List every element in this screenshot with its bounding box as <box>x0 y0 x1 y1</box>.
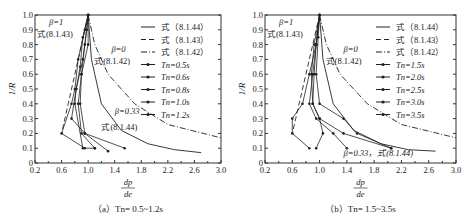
y-tick-label: 0.5 <box>252 84 263 94</box>
x-tick-label: 1.8 <box>369 165 380 175</box>
y-tick-label: 0.4 <box>252 99 263 109</box>
annotation-eq-8-1-44: 式(8.1.44) <box>101 122 137 132</box>
legend-item-7: Tn=3.0s <box>396 97 425 107</box>
annotation-beta-1: β=1 <box>278 17 293 27</box>
annotation-beta-0: β=0 <box>110 44 126 54</box>
y-tick-label: 0.8 <box>252 40 263 50</box>
panel-caption: （a）Tn= 0.5~1.2s <box>93 204 164 214</box>
chart-panel-a: 00.10.20.30.40.50.60.70.80.91.00.20.61.0… <box>7 10 226 214</box>
chart-figure: 00.10.20.30.40.50.60.70.80.91.00.20.61.0… <box>0 0 473 219</box>
y-tick-label: 0.6 <box>22 69 33 79</box>
annotation-eq-8-1-43: 式(8.1.43) <box>267 29 303 39</box>
legend-item-3: 式（8.1.42） <box>161 47 209 57</box>
x-tick-label: 1.4 <box>342 165 353 175</box>
y-tick-label: 0.9 <box>252 25 263 35</box>
x-tick-label: 1.0 <box>314 165 325 175</box>
series-line <box>320 15 456 138</box>
annotation-eq-8-1-43: 式(8.1.43) <box>37 29 73 39</box>
y-tick-label: 0.7 <box>22 54 33 64</box>
legend-item-5: Tn=0.6s <box>161 72 190 82</box>
legend-item-2: 式（8.1.43） <box>161 35 209 45</box>
y-tick-label: 0.3 <box>22 114 33 124</box>
y-tick-label: 0.1 <box>22 143 33 153</box>
legend-item-7: Tn=1.0s <box>161 97 190 107</box>
y-axis-label: 1/R <box>237 82 247 95</box>
x-tick-label: 0.2 <box>260 165 271 175</box>
x-axis-label-denominator: de <box>356 189 364 199</box>
series-line <box>88 15 221 138</box>
x-tick-label: 1.0 <box>83 165 94 175</box>
y-tick-label: 0.8 <box>22 40 33 50</box>
y-axis-label: 1/R <box>7 82 17 95</box>
x-tick-label: 1.4 <box>109 165 120 175</box>
annotation-eq-8-1-42: 式(8.1.42) <box>94 56 130 66</box>
x-tick-label: 2.6 <box>189 165 200 175</box>
panel-caption: （b）Tn= 1.5~3.5s <box>325 204 396 214</box>
legend-item-4: Tn=1.5s <box>396 60 425 70</box>
legend-item-4: Tn=0.5s <box>161 60 190 70</box>
x-tick-label: 2.6 <box>423 165 434 175</box>
y-tick-label: 1.0 <box>252 10 263 20</box>
x-tick-label: 2.2 <box>396 165 407 175</box>
x-axis-label-numerator: dp <box>124 177 133 187</box>
annotation-beta-1: β=1 <box>48 17 63 27</box>
legend-item-6: Tn=2.5s <box>396 85 425 95</box>
x-tick-label: 3.0 <box>216 165 227 175</box>
y-tick-label: 0.2 <box>22 128 33 138</box>
y-tick-label: 0.1 <box>252 143 263 153</box>
x-tick-label: 0.2 <box>30 165 41 175</box>
series-line <box>311 15 391 148</box>
x-tick-label: 3.0 <box>451 165 462 175</box>
legend-item-1: 式（8.1.44） <box>396 22 444 32</box>
legend-item-1: 式（8.1.44） <box>161 22 209 32</box>
y-tick-label: 0.7 <box>252 54 263 64</box>
annotation-beta-0: β=0 <box>342 44 358 54</box>
annotation-beta-033-eq-8-1-44: β=0.33，式(8.1.44) <box>342 148 413 158</box>
x-axis-label-numerator: dp <box>356 177 365 187</box>
x-tick-label: 1.8 <box>136 165 147 175</box>
x-axis-label-denominator: de <box>124 189 132 199</box>
y-tick-label: 0.2 <box>252 128 263 138</box>
chart-panel-b: 00.10.20.30.40.50.60.70.80.91.00.20.61.0… <box>237 10 461 214</box>
y-tick-label: 0.5 <box>22 84 33 94</box>
legend-item-2: 式（8.1.43） <box>396 35 444 45</box>
x-tick-label: 0.6 <box>56 165 67 175</box>
annotation-eq-8-1-42: 式(8.1.42) <box>326 56 362 66</box>
y-tick-label: 0.4 <box>22 99 33 109</box>
y-tick-label: 1.0 <box>22 10 33 20</box>
y-tick-label: 0.9 <box>22 25 33 35</box>
legend-item-3: 式（8.1.42） <box>396 47 444 57</box>
legend-item-8: Tn=1.2s <box>161 110 190 120</box>
x-tick-label: 0.6 <box>287 165 298 175</box>
x-tick-label: 2.2 <box>163 165 174 175</box>
y-tick-label: 0.6 <box>252 69 263 79</box>
annotation-beta-033: β=0.33 <box>114 106 140 116</box>
y-tick-label: 0.3 <box>252 114 263 124</box>
legend-item-8: Tn=3.5s <box>396 110 425 120</box>
legend-item-5: Tn=2.0s <box>396 72 425 82</box>
legend-item-6: Tn=0.8s <box>161 85 190 95</box>
